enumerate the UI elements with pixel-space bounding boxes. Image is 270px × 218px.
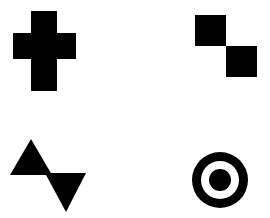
shape-group-bullseye bbox=[192, 152, 248, 208]
square-upper-left bbox=[195, 15, 226, 46]
square-lower-right bbox=[226, 46, 257, 77]
shapes-svg-root bbox=[0, 0, 270, 218]
geometric-shapes-canvas bbox=[0, 0, 270, 218]
bullseye-inner-dot bbox=[209, 169, 231, 191]
